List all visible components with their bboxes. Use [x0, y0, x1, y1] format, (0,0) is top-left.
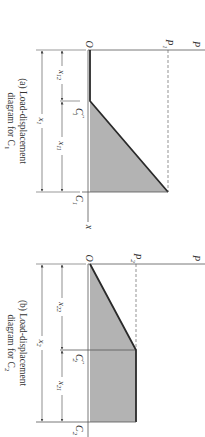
p-axis-label-b: P: [191, 254, 202, 261]
caption-a-line1: (a) Load-displacement: [17, 78, 28, 164]
caption-a-line2: diagram for C1: [3, 93, 16, 150]
shaded-area-b: [90, 264, 136, 422]
c1-double-prime-label: C″1: [71, 108, 86, 118]
diagram-a: O P P1 x C″1 C1 x12 x11 x1 (a) Load-disp…: [3, 38, 205, 230]
origin-b: O: [84, 254, 95, 261]
c2-label: C2: [71, 425, 85, 436]
c2-double-prime-label: C″2: [71, 354, 86, 364]
load-displacement-figure: O P P1 x C″1 C1 x12 x11 x1 (a) Load-disp…: [0, 0, 205, 437]
diagram-b: O P P2 C″2 C2 x22 x21 x2 (b) Load-displa…: [3, 252, 205, 437]
c1-label: C1: [71, 195, 85, 205]
caption-b-line2: diagram for C2: [3, 315, 16, 372]
p2-label: P2: [129, 252, 143, 263]
p1-label: P1: [161, 38, 175, 49]
x-axis-label-a: x: [84, 224, 95, 230]
caption-b-line1: (b) Load-displacement: [17, 300, 28, 387]
origin-a: O: [84, 40, 95, 47]
p-axis-label-a: P: [191, 40, 202, 47]
